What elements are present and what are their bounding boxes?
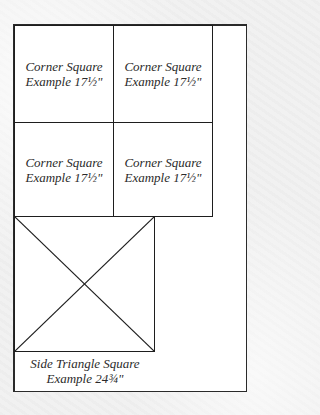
corner-square-bottom-right: Corner Square Example 17½" xyxy=(113,122,213,217)
label-line-2: Example 24¾" xyxy=(15,371,155,386)
diagonal-cross-icon xyxy=(15,217,154,351)
label-line-1: Corner Square xyxy=(25,59,102,74)
corner-square-bottom-left: Corner Square Example 17½" xyxy=(14,122,114,217)
label-line-1: Corner Square xyxy=(124,155,201,170)
corner-square-label: Corner Square Example 17½" xyxy=(124,155,201,185)
corner-square-label: Corner Square Example 17½" xyxy=(25,59,102,89)
label-line-2: Example 17½" xyxy=(25,74,102,89)
side-triangle-square-label: Side Triangle Square Example 24¾" xyxy=(15,356,155,386)
corner-square-top-left: Corner Square Example 17½" xyxy=(14,25,114,123)
corner-square-top-right: Corner Square Example 17½" xyxy=(113,25,213,123)
label-line-1: Corner Square xyxy=(25,155,102,170)
label-line-2: Example 17½" xyxy=(25,170,102,185)
label-line-2: Example 17½" xyxy=(124,74,201,89)
label-line-1: Side Triangle Square xyxy=(15,356,155,371)
corner-square-label: Corner Square Example 17½" xyxy=(124,59,201,89)
side-triangle-square xyxy=(14,216,155,352)
corner-square-label: Corner Square Example 17½" xyxy=(25,155,102,185)
label-line-2: Example 17½" xyxy=(124,170,201,185)
label-line-1: Corner Square xyxy=(124,59,201,74)
